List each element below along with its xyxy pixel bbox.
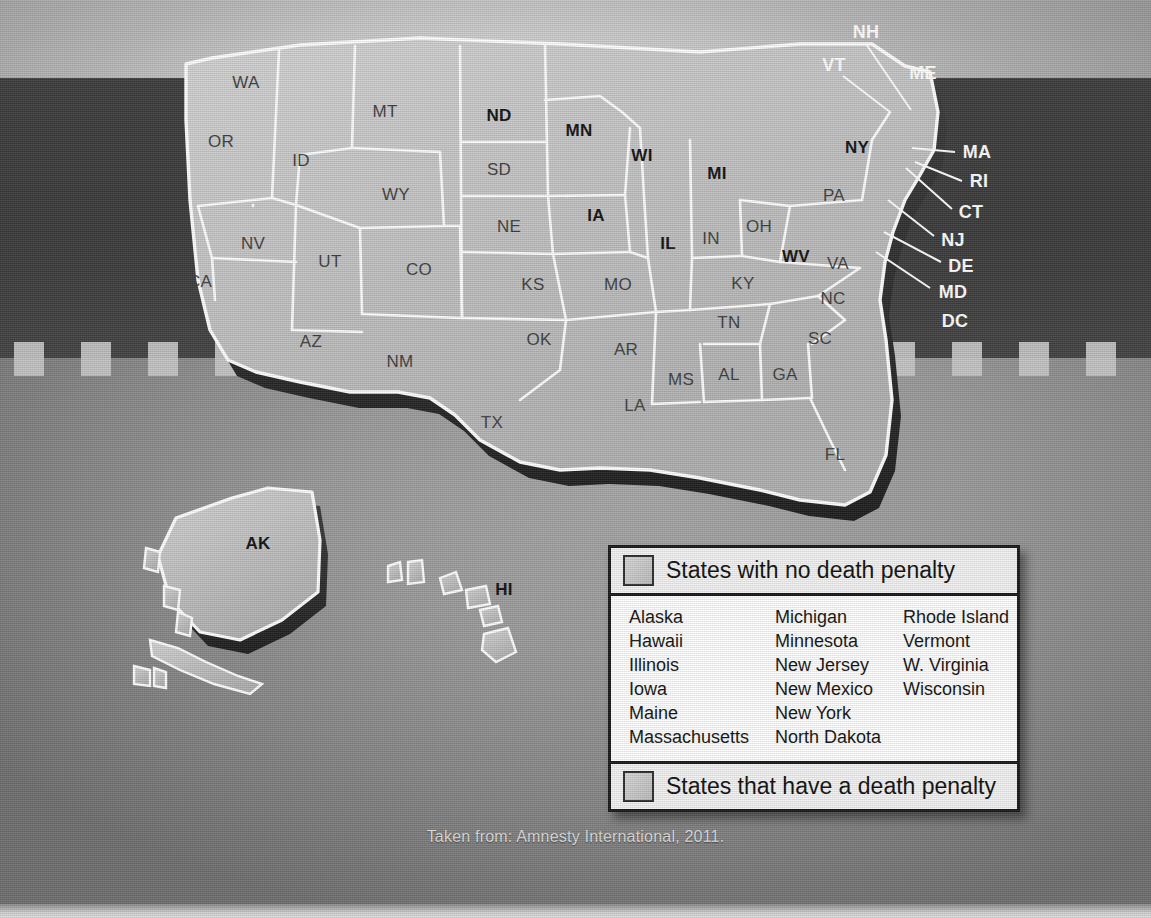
legend-state-item: Wisconsin (903, 678, 1009, 701)
conus-landmass (186, 38, 938, 505)
legend-state-item: Rhode Island (903, 606, 1009, 629)
legend-state-item: North Dakota (775, 726, 903, 749)
legend-state-item: Hawaii (629, 630, 775, 653)
legend-state-item: New York (775, 702, 903, 725)
legend-panel: States with no death penalty AlaskaHawai… (608, 545, 1020, 812)
legend-state-item: Maine (629, 702, 775, 725)
hawaii-landmass (388, 560, 516, 662)
legend-state-item: Massachusetts (629, 726, 775, 749)
legend-header-label: States with no death penalty (666, 557, 955, 584)
legend-footer-label: States that have a death penalty (666, 773, 996, 800)
legend-column-1: AlaskaHawaiiIllinoisIowaMaineMassachuset… (629, 606, 775, 749)
legend-column-3: Rhode IslandVermontW. VirginiaWisconsin (903, 606, 1009, 749)
legend-header-row: States with no death penalty (611, 548, 1017, 596)
legend-state-list: AlaskaHawaiiIllinoisIowaMaineMassachuset… (611, 596, 1017, 761)
legend-swatch-has-penalty (623, 771, 654, 802)
source-caption: Taken from: Amnesty International, 2011. (0, 828, 1151, 846)
legend-state-item: Minnesota (775, 630, 903, 653)
legend-state-item: New Mexico (775, 678, 903, 701)
legend-state-item: Vermont (903, 630, 1009, 653)
legend-swatch-no-penalty (623, 555, 654, 586)
legend-state-item: New Jersey (775, 654, 903, 677)
legend-footer-row: States that have a death penalty (611, 761, 1017, 809)
legend-state-item: Michigan (775, 606, 903, 629)
legend-state-item: W. Virginia (903, 654, 1009, 677)
alaska-landmass (134, 488, 328, 694)
map-figure: WAORIDMTWYNVCAUTCOAZNMNDSDNEKSOKTXMNIAMO… (0, 0, 1151, 918)
legend-state-item: Illinois (629, 654, 775, 677)
legend-state-item: Alaska (629, 606, 775, 629)
legend-state-item: Iowa (629, 678, 775, 701)
legend-column-2: MichiganMinnesotaNew JerseyNew MexicoNew… (775, 606, 903, 749)
